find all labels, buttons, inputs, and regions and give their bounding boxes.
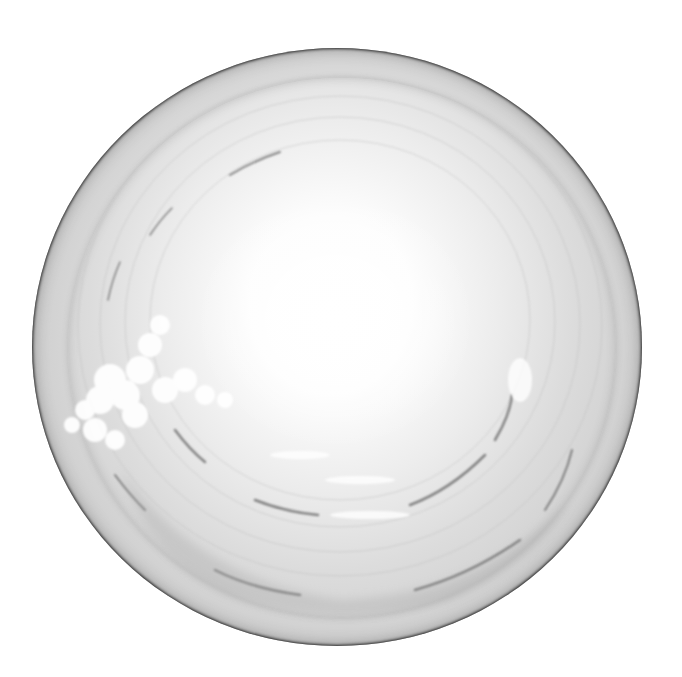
swirl-dash [255,500,318,515]
swirl-dash [230,152,280,175]
center-glow [195,190,475,450]
swirl-dash [545,450,572,510]
artwork-canvas [0,0,682,677]
swirl-dash [108,262,120,300]
swirl-strokes [0,0,682,677]
swirl-dash [150,208,172,235]
swirl-dash [175,430,205,462]
swirl-dash [410,455,485,505]
